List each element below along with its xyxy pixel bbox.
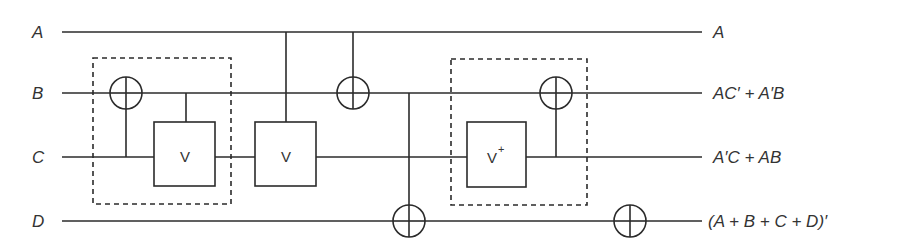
v-dagger-gate: V +	[467, 122, 526, 187]
gate-label-v: V	[180, 148, 190, 165]
not-gate-d-icon	[614, 205, 646, 237]
cnot-gate-c-to-b-1	[110, 77, 142, 157]
cnot-gate-a-to-b	[337, 32, 369, 109]
controlled-v-gate-1: V	[154, 93, 215, 186]
xor-target-icon	[337, 77, 369, 109]
output-label-a: A	[712, 23, 724, 42]
output-label-b: AC′ + A′B	[712, 84, 784, 103]
quantum-circuit-diagram: A B C D V V	[0, 0, 899, 247]
output-label-c: A′C + AB	[712, 148, 781, 167]
gate-label-v: V	[487, 149, 497, 166]
gate-label-v: V	[281, 148, 291, 165]
input-label-c: C	[32, 148, 45, 167]
xor-target-icon	[110, 77, 142, 109]
output-label-d: (A + B + C + D)′	[708, 212, 828, 231]
gate-label-superscript: +	[498, 143, 504, 155]
cnot-gate-c-to-b-2	[540, 77, 572, 157]
xor-target-icon	[540, 77, 572, 109]
controlled-v-gate-2: V	[255, 32, 316, 186]
input-label-a: A	[31, 23, 43, 42]
xor-target-icon	[393, 205, 425, 237]
input-label-b: B	[32, 84, 43, 103]
input-label-d: D	[32, 212, 44, 231]
cnot-gate-b-to-d	[393, 93, 425, 237]
